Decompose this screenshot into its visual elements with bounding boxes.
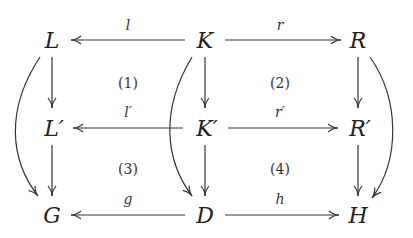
- arrow-R-H-curved: [370, 57, 393, 198]
- node-K-prime: K′: [195, 116, 217, 141]
- node-D: D: [195, 203, 214, 228]
- region-2: (2): [270, 75, 290, 91]
- label-l: l: [126, 17, 130, 33]
- label-h: h: [275, 191, 284, 207]
- node-K: K: [196, 28, 215, 53]
- node-L: L: [44, 28, 60, 53]
- node-G: G: [43, 203, 61, 228]
- label-r-prime: r′: [275, 104, 286, 120]
- region-3: (3): [118, 161, 138, 177]
- node-R-prime: R′: [348, 116, 371, 141]
- node-R: R: [349, 28, 367, 53]
- region-1: (1): [118, 75, 138, 91]
- label-l-prime: l′: [124, 104, 132, 120]
- label-r: r: [277, 17, 285, 33]
- node-H: H: [347, 203, 368, 228]
- region-4: (4): [270, 161, 290, 177]
- arrow-K-D-curved: [170, 57, 192, 196]
- node-L-prime: L′: [43, 116, 64, 141]
- commutative-diagram: L K R L′ K′ R′ G D H l r l′ r′ g h (1) (…: [0, 0, 413, 238]
- arrow-L-G-curved: [15, 57, 40, 196]
- label-g: g: [124, 191, 133, 207]
